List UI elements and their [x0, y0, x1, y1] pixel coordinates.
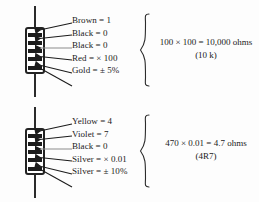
leader-line-4 [35, 157, 72, 161]
leader-line-1 [35, 124, 72, 132]
result-expression: 100 × 100 = 10,000 ohms [154, 36, 258, 49]
curly-brace-icon [139, 114, 153, 188]
resistor-colour-code-figure: Brown = 1 Black = 0 Black = 0 Red = × 10… [0, 0, 259, 202]
leader-line-2 [35, 136, 72, 140]
leader-line-1 [35, 23, 72, 31]
leader-lines-group [30, 107, 75, 197]
resistor-diagram-four-point-seven-ohm: Yellow = 4 Violet = 7 Black = 0 Silver =… [0, 101, 259, 202]
curly-brace-icon [139, 13, 153, 87]
leader-line-4 [35, 56, 72, 60]
leader-line-2 [35, 35, 72, 39]
result-block: 470 × 0.01 = 4.7 ohms (4R7) [154, 137, 258, 163]
result-shorthand: (10 k) [154, 49, 258, 62]
leader-lines-group [30, 6, 75, 96]
resistor-diagram-ten-kilohm: Brown = 1 Black = 0 Black = 0 Red = × 10… [0, 0, 259, 101]
result-shorthand: (4R7) [154, 150, 258, 163]
result-block: 100 × 100 = 10,000 ohms (10 k) [154, 36, 258, 62]
result-expression: 470 × 0.01 = 4.7 ohms [154, 137, 258, 150]
